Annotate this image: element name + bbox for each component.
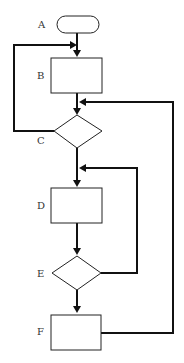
- arrowhead-c-to-d: [73, 180, 81, 187]
- node-e: E: [37, 256, 101, 290]
- arrowhead-b-to-c: [73, 108, 81, 115]
- terminator-shape: [57, 16, 99, 33]
- decision-shape: [52, 256, 101, 290]
- node-d-label: D: [37, 200, 45, 211]
- node-d: D: [37, 188, 102, 223]
- node-f: F: [37, 315, 101, 350]
- arrowhead-c-to-b: [70, 41, 77, 49]
- node-b-label: B: [37, 70, 44, 81]
- flowchart: A B C D E F: [0, 0, 184, 363]
- arrowhead-e-to-f: [73, 306, 81, 313]
- arrowhead-d-to-e: [73, 248, 81, 255]
- arrowhead-f-to-c: [79, 98, 86, 106]
- node-a-label: A: [37, 19, 46, 30]
- node-b: B: [37, 58, 102, 93]
- decision-shape: [54, 115, 102, 148]
- arrowhead-e-to-d: [79, 164, 86, 172]
- process-shape: [51, 188, 102, 223]
- node-a: A: [37, 16, 99, 33]
- node-e-label: E: [37, 268, 44, 279]
- node-c-label: C: [37, 135, 45, 146]
- arrowhead-a-to-b: [73, 50, 81, 57]
- process-shape: [51, 315, 101, 350]
- node-f-label: F: [37, 326, 44, 337]
- process-shape: [51, 58, 102, 93]
